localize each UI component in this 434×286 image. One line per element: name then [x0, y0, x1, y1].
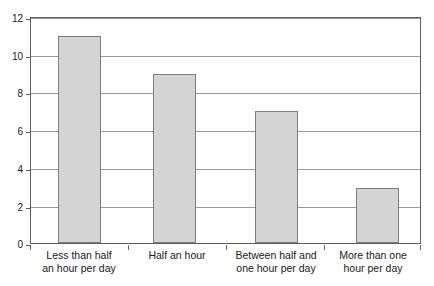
gridline-12: 12 — [31, 18, 420, 19]
x-label-line-2: an hour per day — [30, 262, 128, 275]
x-axis-label-more-than-one-hour: More than one hour per day — [325, 249, 421, 275]
x-axis-label-less-than-half-an-hour: Less than half an hour per day — [30, 249, 128, 275]
y-tick-label-6: 6 — [17, 127, 23, 137]
bar-more-than-one-hour[interactable] — [356, 188, 399, 243]
bar-chart: 12 10 8 6 4 2 0 — [0, 0, 434, 286]
y-tick-label-12: 12 — [12, 14, 23, 24]
bar-half-an-hour[interactable] — [153, 74, 196, 244]
bar-between-half-and-one-hour[interactable] — [255, 111, 298, 243]
x-label-line-2: hour per day — [325, 262, 421, 275]
y-tick-label-4: 4 — [17, 165, 23, 175]
x-label-line-2: one hour per day — [224, 262, 328, 275]
y-tick-label-2: 2 — [17, 203, 23, 213]
x-axis-label-half-an-hour: Half an hour — [128, 249, 226, 262]
bar-less-than-half-an-hour[interactable] — [58, 36, 101, 243]
x-label-line-1: Between half and — [235, 249, 316, 261]
y-tick-6 — [26, 132, 31, 133]
y-tick-8 — [26, 94, 31, 95]
y-tick-label-10: 10 — [12, 52, 23, 62]
x-axis-label-between-half-and-one-hour: Between half and one hour per day — [224, 249, 328, 275]
y-tick-4 — [26, 170, 31, 171]
y-tick-2 — [26, 208, 31, 209]
y-tick-10 — [26, 57, 31, 58]
x-label-line-1: Half an hour — [148, 249, 205, 261]
y-tick-label-0: 0 — [17, 240, 23, 250]
y-tick-label-8: 8 — [17, 89, 23, 99]
x-label-line-1: Less than half — [46, 249, 111, 261]
plot-area: 12 10 8 6 4 2 0 — [30, 17, 421, 244]
x-label-line-1: More than one — [339, 249, 407, 261]
y-tick-12 — [26, 19, 31, 20]
